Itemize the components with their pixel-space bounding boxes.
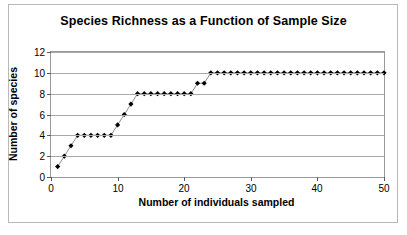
x-tick-label: 30 (245, 183, 256, 194)
data-point-marker (202, 81, 207, 86)
y-tick-mark (47, 156, 51, 157)
data-point-marker (68, 143, 73, 148)
data-point-marker (55, 164, 60, 169)
y-tick-mark (47, 52, 51, 53)
y-axis-title: Number of species (6, 51, 20, 176)
x-tick-mark (184, 177, 185, 181)
x-axis-title: Number of individuals sampled (50, 196, 383, 208)
plot-area: 02468101201020304050 (50, 51, 385, 178)
y-tick-label: 4 (39, 130, 45, 141)
y-tick-label: 8 (39, 89, 45, 100)
y-tick-mark (47, 115, 51, 116)
y-tick-label: 2 (39, 151, 45, 162)
y-tick-mark (47, 94, 51, 95)
x-tick-mark (251, 177, 252, 181)
y-tick-label: 12 (34, 47, 45, 58)
x-tick-label: 40 (311, 183, 322, 194)
gridline-y (51, 73, 384, 74)
chart-title: Species Richness as a Function of Sample… (0, 14, 407, 28)
series-line (58, 73, 384, 167)
y-tick-label: 0 (39, 172, 45, 183)
chart-figure: Species Richness as a Function of Sample… (0, 0, 407, 235)
data-point-marker (195, 81, 200, 86)
x-tick-mark (51, 177, 52, 181)
y-axis-title-label: Number of species (7, 67, 19, 161)
gridline-y (51, 94, 384, 95)
gridline-y (51, 135, 384, 136)
y-tick-mark (47, 73, 51, 74)
gridline-y (51, 115, 384, 116)
x-tick-label: 50 (378, 183, 389, 194)
gridline-y (51, 156, 384, 157)
gridline-y (51, 52, 384, 53)
x-tick-mark (317, 177, 318, 181)
x-tick-label: 20 (178, 183, 189, 194)
x-tick-label: 10 (112, 183, 123, 194)
y-tick-mark (47, 135, 51, 136)
x-tick-mark (118, 177, 119, 181)
y-tick-label: 6 (39, 110, 45, 121)
data-point-marker (128, 101, 133, 106)
data-point-marker (115, 122, 120, 127)
y-tick-label: 10 (34, 68, 45, 79)
x-tick-mark (384, 177, 385, 181)
x-tick-label: 0 (48, 183, 54, 194)
